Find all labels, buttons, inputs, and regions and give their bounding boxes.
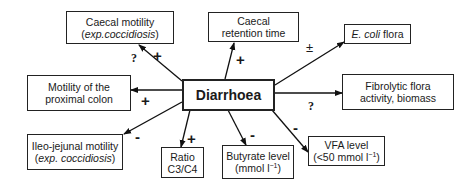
caecal-retention-node: Caecal retention time bbox=[208, 12, 299, 42]
fibrolytic-node: Fibrolytic flora activity, biomass bbox=[342, 74, 454, 110]
ratio-sign: + bbox=[187, 131, 196, 146]
diarrhoea-label: Diarrhoea bbox=[196, 89, 261, 101]
fibrolytic-line2: activity, biomass bbox=[360, 92, 436, 104]
caecal-retention-line2: retention time bbox=[222, 27, 286, 39]
butyrate-line1: Butyrate level bbox=[226, 150, 290, 162]
butyrate-sign: - bbox=[250, 127, 255, 142]
fibrolytic-uncertain: ? bbox=[308, 99, 314, 114]
ileo-jejunal-sign: - bbox=[135, 129, 140, 144]
proximal-colon-line2: proximal colon bbox=[45, 93, 113, 105]
caecal-motility-sign: + bbox=[153, 48, 162, 63]
vfa-line1: VFA level bbox=[325, 139, 369, 151]
ileo-jejunal-line1: Ileo-jejunal motility bbox=[32, 140, 118, 152]
caecal-retention-sign: + bbox=[236, 52, 245, 67]
fibrolytic-line1: Fibrolytic flora bbox=[365, 80, 430, 92]
caecal-motility-line2: (exp.coccidiosis) bbox=[81, 28, 159, 40]
ileo-jejunal-line2: (exp. coccidiosis) bbox=[35, 152, 116, 164]
proximal-colon-line1: Motility of the bbox=[48, 81, 110, 93]
ecoli-node: E. coli flora bbox=[344, 24, 411, 44]
ratio-line1: Ratio bbox=[170, 151, 195, 163]
caecal-retention-line1: Caecal bbox=[237, 15, 270, 27]
vfa-sign: - bbox=[293, 120, 298, 135]
caecal-motility-node: Caecal motility (exp.coccidiosis) bbox=[66, 11, 174, 44]
ratio-line2: C3/C4 bbox=[168, 163, 198, 175]
caecal-motility-line1: Caecal motility bbox=[86, 16, 154, 28]
ecoli-sign: ± bbox=[306, 40, 313, 55]
ecoli-label: E. coli flora bbox=[352, 28, 404, 40]
proximal-colon-node: Motility of the proximal colon bbox=[27, 75, 131, 111]
butyrate-line2: (mmol l−1) bbox=[235, 162, 281, 174]
diarrhoea-node: Diarrhoea bbox=[182, 79, 275, 111]
proximal-colon-sign: + bbox=[141, 93, 150, 108]
caecal-motility-uncertain: ? bbox=[131, 51, 137, 66]
ileo-jejunal-node: Ileo-jejunal motility (exp. coccidiosis) bbox=[27, 134, 123, 170]
vfa-node: VFA level (<50 mmol l−1) bbox=[308, 136, 385, 166]
ratio-node: Ratio C3/C4 bbox=[161, 147, 204, 178]
butyrate-node: Butyrate level (mmol l−1) bbox=[222, 145, 294, 179]
vfa-line2: (<50 mmol l−1) bbox=[313, 151, 380, 163]
